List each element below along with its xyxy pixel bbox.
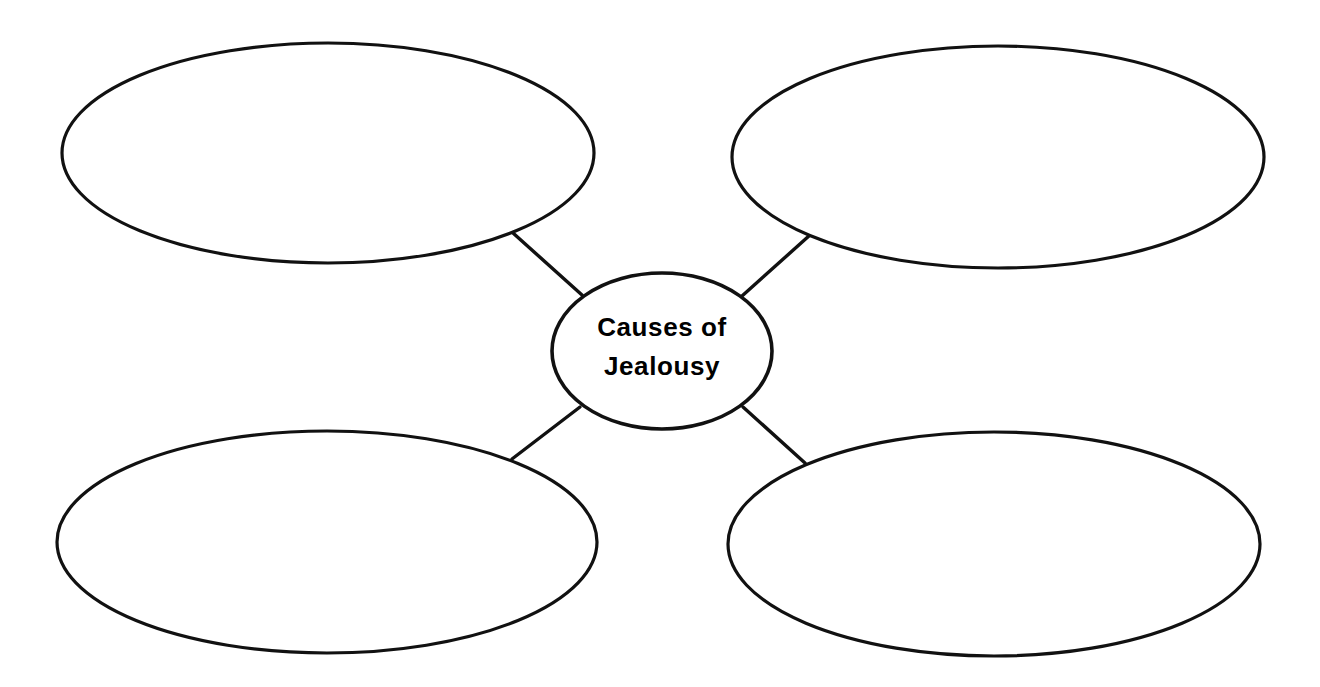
- graphic-organizer-canvas: Causes of Jealousy: [0, 0, 1320, 687]
- connector-bottom-left: [512, 407, 580, 459]
- organizer-diagram: Causes of Jealousy: [0, 0, 1320, 687]
- bubble-bottom-right[interactable]: [728, 432, 1260, 656]
- bubble-bottom-left[interactable]: [57, 431, 597, 653]
- bubble-top-left[interactable]: [62, 43, 594, 263]
- center-node-label-line-2: Jealousy: [604, 351, 720, 381]
- connector-top-right: [742, 235, 810, 296]
- connector-bottom-right: [743, 407, 805, 463]
- bubble-top-right[interactable]: [732, 46, 1264, 268]
- center-node-label-line-1: Causes of: [597, 312, 727, 342]
- connector-top-left: [513, 233, 582, 295]
